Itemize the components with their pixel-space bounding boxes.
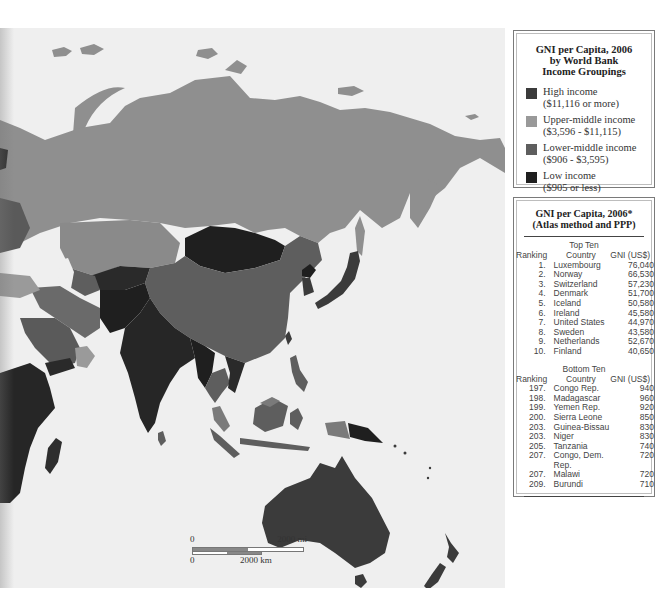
oman [75,346,95,368]
swatch-lower-middle-income [526,144,537,155]
sulawesi [290,408,303,430]
map-graphic [0,28,505,588]
tasmania [355,574,367,588]
swatch-low-income [526,172,537,183]
legend-panel: GNI per Capita, 2006 by World Bank Incom… [513,30,655,188]
bottom-ten-rows: 197.Congo Rep.940 198.Madagascar960 199.… [514,384,654,490]
table-row: 207.Congo, Dem. Rep.720 [514,451,654,470]
new-zealand-north [445,533,459,563]
gni-ranking-table: GNI per Capita, 2006* (Atlas method and … [513,197,655,497]
legend-item-high-income: High income($11,116 or more) [526,86,654,109]
legend-title: GNI per Capita, 2006 by World Bank Incom… [514,44,654,77]
madagascar [45,438,62,474]
page-fold-shadow [0,28,14,588]
taiwan [285,331,292,345]
table-row: 10.Finland40,650 [514,347,654,357]
new-zealand-south [424,563,446,588]
scale-bar: 0 2000 mi 0 2000 km [190,536,315,576]
sumatra [210,428,240,458]
choropleth-map: 0 2000 mi 0 2000 km [0,28,505,588]
scale-km-label: 2000 km [240,555,272,565]
papua-new-guinea [348,423,383,443]
south-korea [302,278,314,296]
divider [524,496,644,497]
java [240,438,310,451]
top-ten-rows: 1.Luxembourg76,040 2.Norway66,530 3.Swit… [514,261,654,357]
table-row: 209.Burundi710 [514,480,654,490]
scale-mi-zero: 0 [190,534,195,544]
malaysia [212,406,230,432]
legend-item-upper-middle-income: Upper-middle income($3,596 - $11,115) [526,114,654,137]
philippines [290,355,308,392]
bottom-ten-title: Bottom Ten [514,364,654,375]
legend-item-lower-middle-income: Lower-middle income($906 - $3,595) [526,142,654,165]
scale-mi-label: 2000 mi [277,534,307,544]
russia-region [0,76,505,248]
table-title: GNI per Capita, 2006* (Atlas method and … [514,208,654,230]
legend-item-low-income: Low income($905 or less) [526,170,654,193]
legend-items: High income($11,116 or more) Upper-middl… [526,86,654,193]
divider [524,236,644,237]
sri-lanka [158,431,166,446]
swatch-upper-middle-income [526,116,537,127]
scale-km-zero: 0 [190,555,195,565]
swatch-high-income [526,88,537,99]
arctic-island [52,47,72,57]
